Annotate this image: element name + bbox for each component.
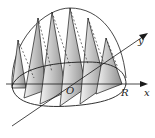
x-axis-label: x xyxy=(144,87,150,98)
solid-diagram: y x R O xyxy=(0,0,155,138)
radius-label: R xyxy=(120,87,129,98)
y-axis-label: y xyxy=(137,35,144,46)
origin-label: O xyxy=(66,85,74,96)
